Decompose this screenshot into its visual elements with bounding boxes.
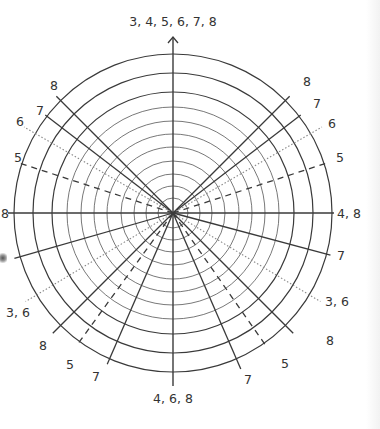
ray-label: 8 xyxy=(50,78,58,93)
ray-label: 5 xyxy=(66,357,74,372)
ray-label: 7 xyxy=(36,103,44,118)
ray-label: 7 xyxy=(244,372,252,387)
radial-line-solid xyxy=(45,115,173,213)
radial-line-solid xyxy=(14,213,173,258)
radial-line-dotted xyxy=(26,213,173,302)
bottom-axis-label: 4, 6, 8 xyxy=(153,391,193,406)
ray-label: 7 xyxy=(337,248,345,263)
ray-label: 7 xyxy=(92,369,100,384)
radial-line-dotted xyxy=(24,127,173,213)
ray-label: 5 xyxy=(14,150,22,165)
ray-label: 5 xyxy=(281,356,289,371)
radial-line-solid xyxy=(173,115,301,213)
ray-label: 8 xyxy=(326,333,334,348)
top-axis-label: 3, 4, 5, 6, 7, 8 xyxy=(129,14,216,29)
ray-label: 7 xyxy=(313,96,321,111)
radial-line-dotted xyxy=(173,127,322,213)
radial-line-solid xyxy=(53,213,173,333)
radial-line-solid xyxy=(56,96,173,213)
radial-line-solid xyxy=(173,96,290,213)
radial-line-dashed xyxy=(173,163,326,213)
ray-label: 8 xyxy=(39,338,47,353)
ray-label: 6 xyxy=(328,116,336,131)
radial-line-solid xyxy=(173,213,293,333)
radial-line-dashed xyxy=(20,163,173,213)
ray-label: 3, 6 xyxy=(325,294,349,309)
ray-label: 8 xyxy=(303,74,311,89)
left-axis-label: 8 xyxy=(1,206,9,221)
radial-line-dotted xyxy=(173,213,320,302)
polar-diagram: 8765876573, 68577583, 6 3, 4, 5, 6, 7, 8… xyxy=(0,0,380,429)
ray-label: 3, 6 xyxy=(6,305,30,320)
ray-label: 6 xyxy=(16,114,24,129)
ray-label: 5 xyxy=(336,150,344,165)
right-axis-label: 4, 8 xyxy=(337,206,361,221)
radial-line-solid xyxy=(107,213,173,364)
